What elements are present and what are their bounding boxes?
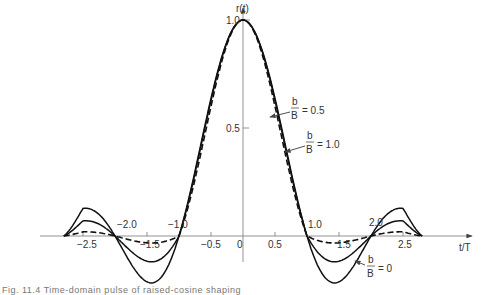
x-axis-label: t/T — [459, 242, 471, 253]
x-tick-label-0.5: 0.5 — [268, 239, 282, 250]
x-tick-label-m1.5: −1.5 — [140, 239, 160, 250]
annotation-b-1.0: b B = 1.0 — [285, 130, 340, 155]
y-tick-label-0.5: 0.5 — [226, 123, 240, 134]
svg-text:= 0.5: = 0.5 — [302, 105, 325, 116]
x-tick-label-2.5: 2.5 — [398, 239, 412, 250]
svg-text:b: b — [292, 96, 298, 107]
x-tick-label-m0.5: −0.5 — [201, 239, 221, 250]
x-tick-label-m1.0: −1.0 — [168, 219, 188, 230]
svg-text:B: B — [367, 268, 374, 279]
annotation-b-0: b B = 0 — [355, 254, 393, 279]
figure-caption: Fig. 11.4 Time-domain pulse of raised-co… — [2, 285, 241, 295]
x-tick-label-1.0: 1.0 — [308, 219, 322, 230]
y-tick-label-1.0: 1.0 — [226, 15, 240, 26]
x-tick-label-m2.5: −2.5 — [77, 239, 97, 250]
svg-text:B: B — [291, 110, 298, 121]
svg-text:B: B — [306, 144, 313, 155]
svg-text:= 1.0: = 1.0 — [317, 139, 340, 150]
x-tick-label-2.0: 2.0 — [369, 217, 383, 228]
x-tick-label-1.5: 1.5 — [337, 239, 351, 250]
svg-text:= 0: = 0 — [378, 263, 393, 274]
svg-text:b: b — [307, 130, 313, 141]
x-tick-label-m2.0: −2.0 — [117, 219, 137, 230]
svg-text:b: b — [368, 254, 374, 265]
y-axis-label: r(t) — [236, 3, 249, 14]
origin-label: 0 — [237, 239, 243, 250]
